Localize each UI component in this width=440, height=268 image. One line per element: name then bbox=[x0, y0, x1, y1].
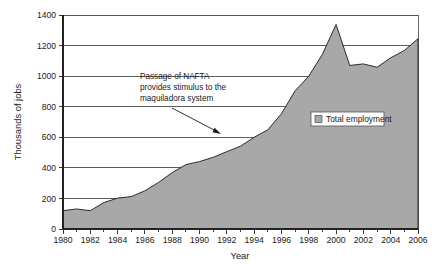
y-tick-labels: 1400 1200 1000 800 600 400 200 0 bbox=[37, 10, 56, 234]
annotation-line-3: maquiladora system bbox=[140, 94, 213, 103]
x-tick-marks bbox=[63, 229, 418, 234]
x-tick-label: 2004 bbox=[381, 235, 400, 245]
annotation-line-1: Passage of NAFTA bbox=[140, 72, 210, 81]
x-tick-label: 1992 bbox=[217, 235, 236, 245]
y-tick-label: 800 bbox=[42, 102, 57, 112]
x-tick-label: 2006 bbox=[408, 235, 427, 245]
x-tick-label: 1990 bbox=[190, 235, 209, 245]
y-axis-title: Thousands of jobs bbox=[12, 83, 23, 160]
x-tick-label: 1998 bbox=[299, 235, 318, 245]
y-tick-label: 1000 bbox=[37, 71, 56, 81]
y-tick-label: 0 bbox=[51, 224, 56, 234]
y-tick-label: 200 bbox=[42, 194, 57, 204]
employment-area-chart: 1400 1200 1000 800 600 400 200 0 bbox=[0, 0, 440, 268]
x-tick-labels: 1980 1982 1984 1986 1988 1990 1992 1994 … bbox=[53, 235, 427, 245]
chart-figure: 1400 1200 1000 800 600 400 200 0 bbox=[0, 0, 440, 268]
legend-label-total-employment: Total employment bbox=[326, 114, 392, 124]
y-tick-label: 1400 bbox=[37, 10, 56, 20]
annotation-line-2: provides stimulus to the bbox=[140, 83, 226, 92]
x-axis-title: Year bbox=[231, 250, 250, 261]
x-tick-label: 1982 bbox=[81, 235, 100, 245]
legend-swatch-total-employment bbox=[315, 116, 322, 123]
y-tick-label: 600 bbox=[42, 132, 57, 142]
x-tick-label: 1994 bbox=[245, 235, 264, 245]
y-tick-marks bbox=[59, 15, 63, 229]
y-tick-label: 1200 bbox=[37, 41, 56, 51]
x-tick-label: 1984 bbox=[108, 235, 127, 245]
x-tick-label: 1980 bbox=[53, 235, 72, 245]
x-tick-label: 1986 bbox=[135, 235, 154, 245]
x-tick-label: 1988 bbox=[163, 235, 182, 245]
x-tick-label: 1996 bbox=[272, 235, 291, 245]
y-tick-label: 400 bbox=[42, 163, 57, 173]
legend: Total employment bbox=[311, 112, 392, 126]
x-tick-label: 2002 bbox=[354, 235, 373, 245]
x-tick-label: 2000 bbox=[327, 235, 346, 245]
